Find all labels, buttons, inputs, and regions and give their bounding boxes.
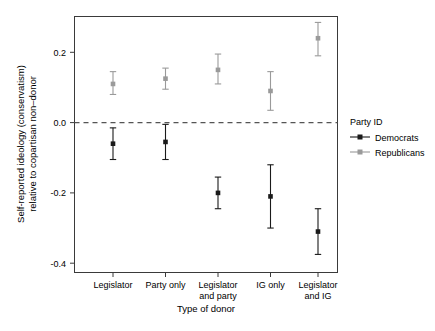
chart-figure: Self-reported ideology (conservatism) re… — [0, 0, 435, 331]
x-tick-label-legislator: Legislator — [93, 280, 132, 290]
data-point-marker — [268, 194, 273, 199]
y-axis-title-line1: Self-reported ideology (conservatism) — [15, 65, 26, 223]
x-tick-label-legislator-and-party-line1: Legislator — [198, 280, 237, 290]
data-point-marker — [268, 89, 273, 94]
legend-marker-democrats — [358, 135, 363, 140]
data-point-marker — [163, 140, 168, 145]
y-tick-label: 0.2 — [53, 48, 66, 58]
x-tick-label-legislator-and-party-line2: and party — [199, 291, 237, 301]
y-tick-label: -0.2 — [50, 188, 66, 198]
legend-marker-republicans — [358, 150, 363, 155]
data-point-marker — [111, 141, 116, 146]
data-point-marker — [216, 191, 221, 196]
x-axis-title: Type of donor — [177, 303, 235, 314]
y-tick-label: -0.4 — [50, 259, 66, 269]
data-point-marker — [316, 229, 321, 234]
legend-title: Party ID — [350, 117, 383, 127]
chart-svg: Self-reported ideology (conservatism) re… — [0, 0, 435, 331]
x-tick-label-legislator-and-ig-line1: Legislator — [298, 280, 337, 290]
legend-label-republicans: Republicans — [375, 148, 425, 158]
x-tick-label-legislator-and-ig-line2: and IG — [304, 291, 331, 301]
data-point-marker — [216, 68, 221, 73]
legend-label-democrats: Democrats — [375, 133, 419, 143]
x-tick-label-ig-only: IG only — [256, 280, 285, 290]
data-point-marker — [163, 76, 168, 81]
y-tick-label: 0.0 — [53, 118, 66, 128]
data-point-marker — [316, 36, 321, 41]
x-tick-label-party-only: Party only — [145, 280, 186, 290]
y-axis-title-line2: relative to copartisan non–donor — [27, 76, 38, 212]
y-axis-title: Self-reported ideology (conservatism) re… — [15, 65, 38, 223]
data-point-marker — [111, 82, 116, 87]
